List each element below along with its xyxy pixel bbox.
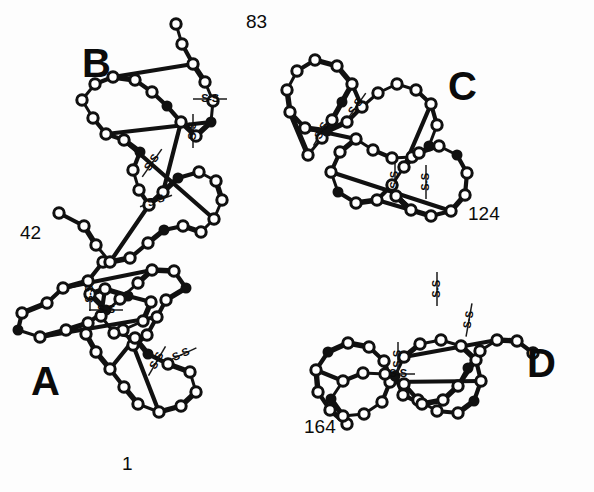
residue-node (79, 221, 89, 231)
residue-node (347, 79, 357, 89)
residue-node (58, 283, 68, 293)
cysteine-residue-node (324, 348, 333, 357)
residue-node (313, 387, 323, 397)
residue-node (91, 240, 101, 250)
cysteine-residue-node (453, 151, 462, 160)
residue-node (77, 95, 87, 105)
cysteine-residue-node (327, 395, 336, 404)
residue-node (456, 341, 466, 351)
residue-node (138, 316, 148, 326)
residue-node (119, 382, 129, 392)
residue-node (436, 335, 446, 345)
residue-node (303, 150, 313, 160)
disulfide-label: S-S (388, 171, 400, 188)
residue-node (434, 141, 444, 151)
residue-node (453, 381, 463, 391)
residue-node (61, 325, 71, 335)
residue-node (177, 39, 187, 49)
cysteine-residue-node (160, 226, 169, 235)
residue-node (142, 330, 152, 340)
residue-node (147, 87, 157, 97)
residue-node (125, 253, 135, 263)
disulfide-label: S-S (186, 122, 198, 139)
residue-node (191, 387, 201, 397)
residue-node (438, 395, 448, 405)
residue-node (432, 120, 442, 130)
residue-node (432, 406, 442, 416)
cysteine-residue-node (338, 98, 347, 107)
residue-node (169, 266, 179, 276)
residue-node (398, 390, 408, 400)
residue-node (358, 368, 368, 378)
residue-node (91, 347, 101, 357)
backbone-crosslink-b (113, 64, 193, 77)
cysteine-residue-node (425, 142, 434, 151)
residue-node (411, 85, 421, 95)
residue-node (373, 88, 383, 98)
residue-node (152, 312, 162, 322)
residue-83-label: 83 (246, 11, 267, 32)
residue-node (88, 113, 98, 123)
residue-node (338, 411, 348, 421)
residue-124-label: 124 (468, 203, 500, 224)
residue-node (392, 79, 402, 89)
disulfide-label: S-S (201, 92, 218, 104)
residue-node (105, 257, 115, 267)
residue-node (426, 211, 436, 221)
residue-node (109, 328, 119, 338)
residue-node (188, 59, 198, 69)
disulfide-label: S-S (389, 367, 406, 379)
chain-d-label: D (527, 341, 556, 385)
cysteine-residue-node (14, 326, 23, 335)
residue-node (332, 61, 342, 71)
residue-node (54, 208, 64, 218)
residue-node (176, 401, 186, 411)
residue-node (211, 176, 221, 186)
residue-node (391, 191, 401, 201)
residue-node (475, 346, 485, 356)
residue-164-label: 164 (304, 416, 336, 437)
residue-node (133, 399, 143, 409)
cysteine-residue-node (136, 148, 145, 157)
cysteine-residue-node (334, 188, 343, 197)
residue-node (146, 297, 156, 307)
residue-node (130, 75, 140, 85)
residue-node (285, 107, 295, 117)
chain-c-label: C (448, 64, 477, 108)
residue-node (163, 359, 173, 369)
residue-node (415, 339, 425, 349)
residue-node (327, 115, 337, 125)
residue-node (119, 135, 129, 145)
residue-node (351, 198, 361, 208)
disulfide-label: S-S (170, 345, 191, 363)
residue-node (292, 66, 302, 76)
residue-node (342, 117, 352, 127)
residue-node (81, 329, 91, 339)
disulfide-label: S-S (419, 173, 431, 190)
residue-node (338, 376, 348, 386)
residue-node (217, 195, 227, 205)
residue-node (17, 308, 27, 318)
disulfide-label: S-S (391, 350, 403, 367)
residue-node (476, 376, 486, 386)
residue-node (209, 214, 219, 224)
residue-node (310, 55, 320, 65)
residue-node (128, 165, 138, 175)
residue-node (446, 206, 456, 216)
residue-node (512, 336, 522, 346)
residue-node (105, 364, 115, 374)
residue-42-label: 42 (20, 222, 41, 243)
chain-b-label: B (82, 41, 111, 85)
residue-node (154, 407, 164, 417)
residue-node (387, 153, 397, 163)
molecular-structure-figure: S-SS-SS-SS-SS-SS-SS-SS-SS-SS-SS-SS-SS-SS… (0, 0, 594, 492)
cysteine-residue-node (470, 397, 479, 406)
residue-node (133, 278, 143, 288)
residue-node (379, 356, 389, 366)
residue-node (161, 295, 171, 305)
residue-node (35, 332, 45, 342)
residue-node (147, 265, 157, 275)
residue-node (406, 205, 416, 215)
residue-node (83, 318, 93, 328)
residue-node (368, 145, 378, 155)
